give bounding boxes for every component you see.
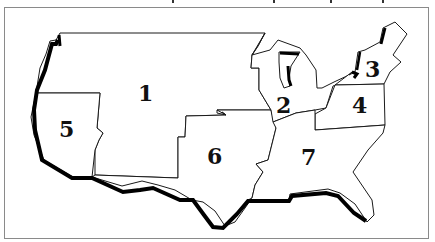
- region-2-label: 2: [276, 92, 291, 118]
- us-regions-map: 1 2 3 4 5 6 7: [0, 0, 435, 242]
- region-7-label: 7: [301, 144, 316, 170]
- great-lakes-shore: [280, 53, 299, 54]
- region-4-label: 4: [352, 92, 367, 118]
- region-5-label: 5: [59, 116, 74, 142]
- puget-sound-shore: [59, 35, 60, 46]
- region-3-label: 3: [365, 56, 380, 82]
- region-1-label: 1: [138, 80, 153, 106]
- region-6-label: 6: [207, 143, 222, 169]
